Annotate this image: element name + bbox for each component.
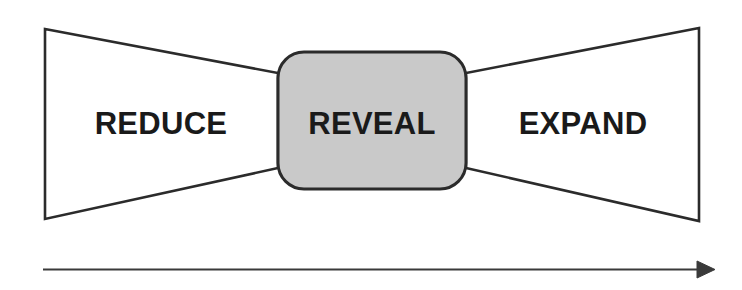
progress-arrow-head	[697, 261, 715, 278]
bowtie-diagram: REDUCE REVEAL EXPAND	[0, 0, 742, 290]
progress-arrow	[43, 261, 715, 278]
stage-label-reveal: REVEAL	[278, 108, 466, 139]
stage-label-reduce: REDUCE	[44, 108, 278, 139]
diagram-canvas	[0, 0, 742, 290]
stage-label-expand: EXPAND	[466, 108, 700, 139]
